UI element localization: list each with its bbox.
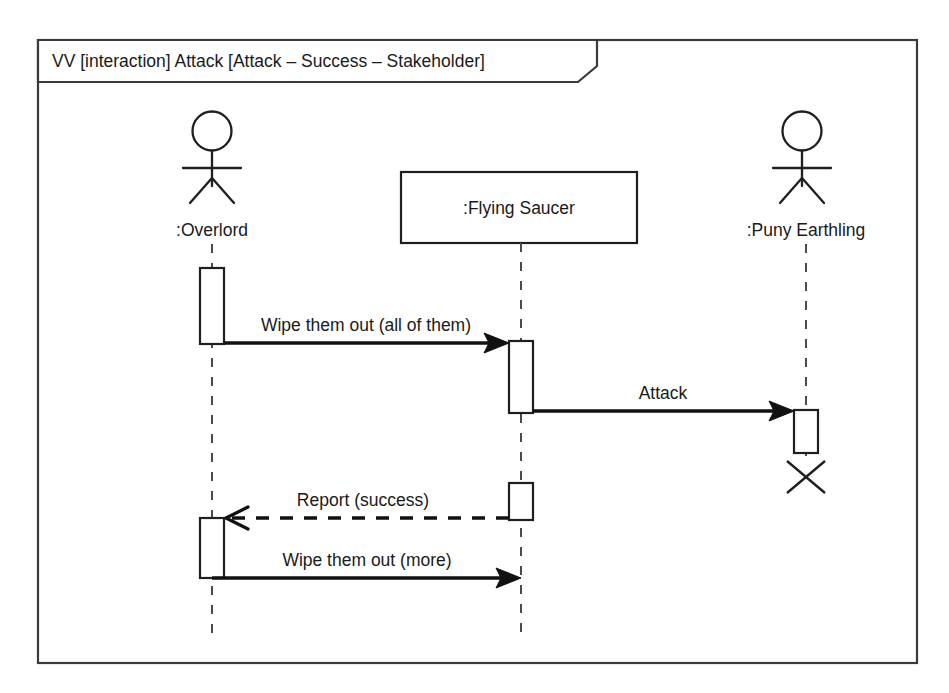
participant-label-puny-earthling: :Puny Earthling [747,220,866,240]
message-label-3: Report (success) [297,490,429,510]
activation-bar-puny-earthling-1 [794,410,818,453]
activation-bar-flying-saucer-2 [509,483,533,520]
participant-label-overlord: :Overlord [176,220,248,240]
activation-bar-overlord-2 [200,518,224,578]
actor-head-icon [193,112,232,151]
message-label-4: Wipe them out (more) [282,550,451,570]
sequence-diagram-canvas: VV [interaction] Attack [Attack – Succes… [0,0,949,693]
frame-header-label: VV [interaction] Attack [Attack – Succes… [52,51,485,71]
message-label-1: Wipe them out (all of them) [261,315,471,335]
participant-label-flying-saucer: :Flying Saucer [463,198,575,218]
message-label-2: Attack [639,383,688,403]
activation-bar-overlord-1 [200,268,224,344]
activation-bar-flying-saucer-1 [509,341,533,413]
actor-head-icon [783,112,822,151]
